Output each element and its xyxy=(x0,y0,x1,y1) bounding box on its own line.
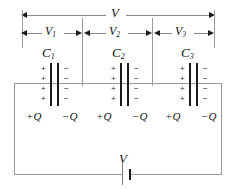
capacitor-3-positive-plate xyxy=(189,63,191,106)
capacitor-3-plus-2: + xyxy=(180,75,185,83)
segment-2-arrow-left xyxy=(84,30,90,36)
bottom-wire-right xyxy=(130,174,222,175)
segment-2-voltage-label: V2 xyxy=(109,25,120,38)
capacitor-1-plus-4: + xyxy=(41,95,46,103)
capacitor-2-minus-3: − xyxy=(134,85,139,93)
capacitor-1-label: C1 xyxy=(42,46,55,61)
capacitor-1-plus-3: + xyxy=(41,85,46,93)
left-wire xyxy=(14,83,15,175)
capacitor-1-negative-charge-label: −Q xyxy=(62,111,77,122)
segment-1-arrow-left xyxy=(21,30,27,36)
battery-long-plate xyxy=(122,163,123,185)
capacitor-3-negative-charge-label: −Q xyxy=(201,111,216,122)
capacitor-2-negative-charge-label: −Q xyxy=(132,111,147,122)
capacitor-1-plus-2: + xyxy=(41,75,46,83)
segment-3-arrow-right xyxy=(208,30,214,36)
bottom-wire-left xyxy=(14,174,122,175)
capacitor-1-minus-4: − xyxy=(64,95,69,103)
capacitor-3-positive-charge-label: +Q xyxy=(165,111,180,122)
capacitor-series-circuit-diagram: V V V1 V2 V3 C1 C2 C3 xyxy=(0,0,235,189)
capacitor-2-plus-2: + xyxy=(111,75,116,83)
segment-1-arrow-right xyxy=(76,30,82,36)
capacitor-3-label: C3 xyxy=(181,46,194,61)
capacitor-2-label: C2 xyxy=(112,46,125,61)
capacitor-3-plus-3: + xyxy=(180,85,185,93)
segment-1-voltage-label: V1 xyxy=(45,25,56,38)
capacitor-1-minus-2: − xyxy=(64,75,69,83)
capacitor-1-negative-plate xyxy=(57,63,59,106)
capacitor-2-plus-3: + xyxy=(111,85,116,93)
capacitor-2-positive-charge-label: +Q xyxy=(96,111,111,122)
capacitor-3-minus-3: − xyxy=(203,85,208,93)
capacitor-2-minus-1: − xyxy=(134,65,139,73)
capacitor-3-negative-plate xyxy=(196,63,198,106)
capacitor-3-minus-2: − xyxy=(203,75,208,83)
capacitor-1-plus-1: + xyxy=(41,65,46,73)
battery-voltage-label: V xyxy=(119,152,127,165)
capacitor-2-negative-plate xyxy=(127,63,129,106)
segment-2-arrow-right xyxy=(146,30,152,36)
guide-line-right xyxy=(214,10,215,48)
guide-line-divider-2 xyxy=(152,18,153,86)
capacitor-2-minus-2: − xyxy=(134,75,139,83)
capacitor-2-plus-1: + xyxy=(111,65,116,73)
capacitor-2-minus-4: − xyxy=(134,95,139,103)
segment-3-arrow-left xyxy=(154,30,160,36)
total-voltage-label-text: V xyxy=(111,6,119,19)
capacitor-1-minus-3: − xyxy=(64,85,69,93)
segment-3-voltage-label: V3 xyxy=(175,25,186,38)
capacitor-1-positive-charge-label: +Q xyxy=(26,111,41,122)
guide-line-left xyxy=(22,10,23,48)
right-wire xyxy=(221,83,222,175)
capacitor-3-minus-4: − xyxy=(203,95,208,103)
battery-short-plate xyxy=(129,169,131,180)
guide-line-divider-1 xyxy=(82,18,83,86)
capacitor-2-plus-4: + xyxy=(111,95,116,103)
capacitor-3-minus-1: − xyxy=(203,65,208,73)
capacitor-2-positive-plate xyxy=(120,63,122,106)
capacitor-3-plus-1: + xyxy=(180,65,185,73)
capacitor-3-plus-4: + xyxy=(180,95,185,103)
capacitor-1-minus-1: − xyxy=(64,65,69,73)
capacitor-1-positive-plate xyxy=(50,63,52,106)
